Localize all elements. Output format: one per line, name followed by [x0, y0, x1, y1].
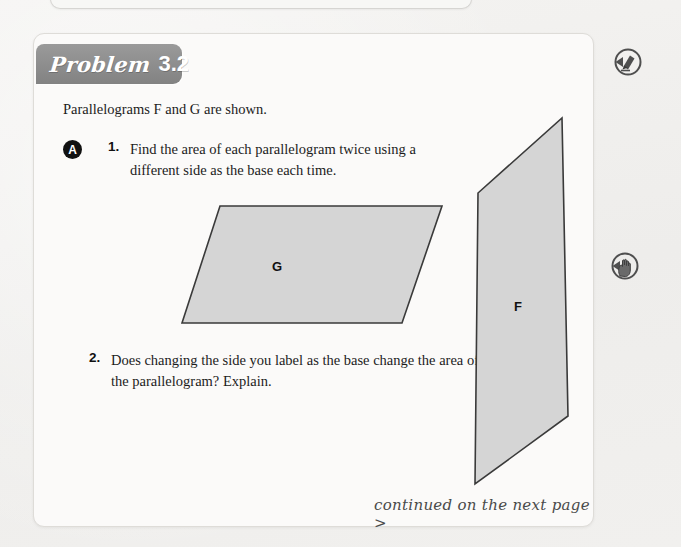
parallelogram-g-shape: [182, 206, 442, 323]
banner-number: 3.2: [159, 51, 190, 77]
question-2-number: 2.: [89, 350, 111, 365]
question-1-number: 1.: [108, 139, 130, 154]
continued-note: continued on the next page >: [374, 496, 593, 532]
question-1-block: A 1. Find the area of each parallelogram…: [63, 139, 463, 180]
part-a-badge: A: [63, 140, 82, 159]
intro-text: Parallelograms F and G are shown.: [63, 101, 267, 118]
parallelogram-g-label: G: [272, 259, 282, 274]
question-1-text: Find the area of each parallelogram twic…: [130, 139, 463, 180]
pencil-icon: [609, 45, 643, 79]
previous-section-box: [50, 0, 472, 9]
question-2-text: Does changing the side you label as the …: [111, 350, 489, 391]
question-2-block: 2. Does changing the side you label as t…: [89, 350, 489, 391]
parallelogram-f-label: F: [514, 299, 522, 314]
banner-word: Problem: [49, 52, 152, 77]
problem-card: Problem 3.2 Parallelograms F and G are s…: [33, 33, 594, 527]
hand-icon: [607, 249, 641, 283]
problem-banner: Problem 3.2: [36, 44, 182, 84]
